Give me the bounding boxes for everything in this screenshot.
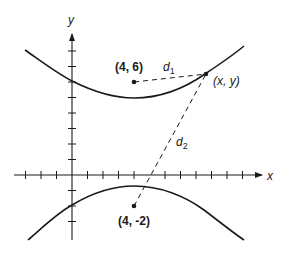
d1-label: d1 — [163, 60, 175, 76]
x-axis-label: x — [266, 169, 274, 183]
d1-subscript: 1 — [170, 66, 175, 76]
focus-upper-point — [132, 80, 137, 85]
y-axis-label: y — [67, 13, 75, 27]
distance-line-d2 — [134, 74, 206, 206]
focus-lower-label: (4, -2) — [118, 214, 150, 228]
hyperbola-diagram: y x (4, 6) (4, -2) (x, y) d1 d2 — [0, 0, 286, 255]
d2-subscript: 2 — [183, 141, 188, 151]
curve-point — [204, 72, 209, 77]
focus-upper-label: (4, 6) — [115, 60, 143, 74]
focus-lower-point — [132, 204, 137, 209]
curve-point-label: (x, y) — [213, 74, 240, 88]
diagram-canvas: y x (4, 6) (4, -2) (x, y) d1 d2 — [0, 0, 286, 255]
hyperbola-lower-branch — [28, 186, 244, 240]
d2-label: d2 — [176, 135, 188, 151]
